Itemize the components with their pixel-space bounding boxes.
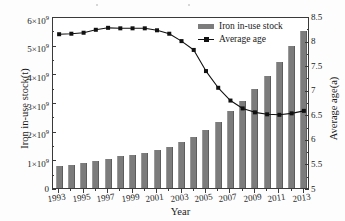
y-axis-right-tick-label: 7	[311, 86, 316, 95]
line-data-point	[302, 109, 306, 113]
line-data-point	[192, 48, 196, 52]
y-axis-left-title: Iron in-use stock(t)	[19, 29, 30, 189]
y-axis-right-tick	[305, 189, 309, 190]
y-axis-left-minor-tick	[52, 89, 54, 90]
y-axis-right-tick	[305, 115, 309, 116]
y-axis-right-tick-label: 8	[311, 37, 316, 46]
y-axis-left-minor-tick	[52, 31, 54, 32]
y-axis-right-tick-label: 5.5	[311, 160, 322, 169]
line-data-point	[94, 28, 98, 32]
line-data-point	[82, 31, 86, 35]
legend-item-average-age: Average age	[198, 33, 283, 46]
y-axis-left-tick-label: 6×109	[27, 13, 49, 26]
x-axis-tick-label: 1999	[121, 191, 140, 203]
x-axis-minor-tick	[95, 189, 96, 191]
y-axis-right-title: Average age(a)	[328, 29, 339, 189]
y-axis-left-tick-label: 3×109	[27, 99, 49, 112]
x-axis-tick-label: 2011	[267, 192, 286, 204]
y-axis-left-minor-tick	[52, 117, 54, 118]
y-axis-right-minor-tick	[307, 29, 309, 30]
y-axis-left-tick-label: 1×109	[27, 156, 49, 169]
line-data-point	[57, 32, 61, 36]
y-axis-left-tick	[52, 160, 56, 161]
x-axis-minor-tick	[144, 189, 145, 191]
chart-figure: 01×1092×1093×1094×1095×1096×109 55.566.5…	[0, 0, 345, 221]
x-axis-tick-label: 1993	[47, 191, 66, 203]
x-axis-tick-label: 2005	[194, 191, 213, 203]
y-axis-left-tick-label: 2×109	[27, 127, 49, 140]
x-axis-minor-tick	[266, 189, 267, 191]
y-axis-right-minor-tick	[307, 177, 309, 178]
bar-swatch-icon	[198, 24, 214, 29]
legend-label-iron-in-use-stock: Iron in-use stock	[219, 20, 283, 33]
y-axis-left-tick	[52, 103, 56, 104]
y-axis-left-tick	[52, 189, 56, 190]
line-data-point	[204, 69, 208, 73]
y-axis-right-tick	[305, 91, 309, 92]
x-axis-tick-label: 1995	[72, 191, 91, 203]
line-data-point	[265, 112, 269, 116]
line-data-point	[155, 28, 159, 32]
line-data-point	[106, 26, 110, 30]
x-axis-minor-tick	[70, 189, 71, 191]
line-marker-swatch-icon	[198, 36, 214, 43]
line-data-point	[69, 32, 73, 36]
line-data-point	[143, 26, 147, 30]
x-axis-minor-tick	[193, 189, 194, 191]
line-data-point	[118, 26, 122, 30]
y-axis-left-tick	[52, 17, 56, 18]
y-axis-left-minor-tick	[52, 60, 54, 61]
y-axis-left-tick-label: 0	[45, 185, 50, 194]
y-axis-right-tick	[305, 17, 309, 18]
line-data-point	[228, 99, 232, 103]
x-axis-tick-label: 1997	[96, 191, 115, 203]
x-axis-tick-label: 2009	[243, 191, 262, 203]
line-data-point	[216, 86, 220, 90]
y-axis-right-tick-label: 5	[311, 185, 316, 194]
y-axis-left-minor-tick	[52, 146, 54, 147]
y-axis-left-tick-label: 4×109	[27, 70, 49, 83]
chart-legend: Iron in-use stock Average age	[198, 20, 283, 46]
x-axis-tick-label: 2003	[170, 191, 189, 203]
x-axis-minor-tick	[242, 189, 243, 191]
y-axis-right-tick	[305, 66, 309, 67]
y-axis-right-minor-tick	[307, 128, 309, 129]
y-axis-right-tick-label: 6.5	[311, 111, 322, 120]
legend-item-iron-in-use-stock: Iron in-use stock	[198, 20, 283, 33]
x-axis-tick-label: 2001	[145, 191, 164, 203]
y-axis-right-tick-label: 7.5	[311, 62, 322, 71]
y-axis-right-minor-tick	[307, 103, 309, 104]
y-axis-right-minor-tick	[307, 78, 309, 79]
y-axis-right-minor-tick	[307, 152, 309, 153]
y-axis-right-tick-label: 8.5	[311, 13, 322, 22]
y-axis-left-tick	[52, 46, 56, 47]
x-axis-tick-label: 2013	[292, 191, 311, 203]
line-data-point	[180, 39, 184, 43]
y-axis-left-tick-label: 5×109	[27, 41, 49, 54]
x-axis-minor-tick	[168, 189, 169, 191]
line-data-point	[277, 113, 281, 117]
line-data-point	[241, 106, 245, 110]
y-axis-left-minor-tick	[52, 175, 54, 176]
x-axis-minor-tick	[217, 189, 218, 191]
line-data-point	[131, 26, 135, 30]
x-axis-minor-tick	[119, 189, 120, 191]
x-axis-title: Year	[52, 206, 309, 217]
scan-artifact	[188, 4, 190, 6]
line-data-point	[253, 110, 257, 114]
x-axis-minor-tick	[291, 189, 292, 191]
y-axis-left-tick	[52, 74, 56, 75]
y-axis-right-tick	[305, 42, 309, 43]
y-axis-right-tick	[305, 164, 309, 165]
y-axis-left-tick	[52, 132, 56, 133]
y-axis-right-tick-label: 6	[311, 135, 316, 144]
scan-artifact	[96, 4, 98, 6]
line-data-point	[167, 32, 171, 36]
y-axis-right-tick	[305, 140, 309, 141]
x-axis-tick-label: 2007	[218, 191, 237, 203]
legend-label-average-age: Average age	[219, 33, 266, 46]
y-axis-right-minor-tick	[307, 54, 309, 55]
line-data-point	[290, 111, 294, 115]
